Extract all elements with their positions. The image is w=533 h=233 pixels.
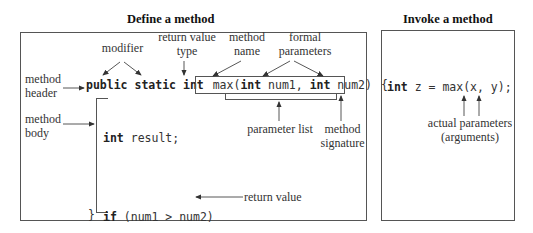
- formal-param-arrow-2: [294, 61, 323, 76]
- modifier-arrow-public: [103, 62, 120, 75]
- arrows-layer: [0, 0, 533, 233]
- formal-param-arrow-1: [263, 61, 290, 76]
- method-name-arrow: [213, 61, 241, 76]
- modifier-arrow-static: [124, 62, 141, 75]
